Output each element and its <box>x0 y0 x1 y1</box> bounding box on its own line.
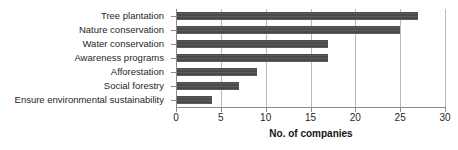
category-label: Afforestation <box>0 67 164 77</box>
bar <box>176 12 418 20</box>
x-axis-tick-label: 25 <box>385 112 415 124</box>
y-axis-tick-mark <box>171 16 176 17</box>
category-label: Water conservation <box>0 39 164 49</box>
gridline <box>355 9 356 107</box>
x-axis-tick-label: 20 <box>340 112 370 124</box>
gridline <box>445 9 446 107</box>
bar-chart: Tree plantationNature conservationWater … <box>0 0 458 150</box>
category-label: Awareness programs <box>0 53 164 63</box>
x-axis-tick-label: 10 <box>251 112 281 124</box>
bar <box>176 54 328 62</box>
category-label: Tree plantation <box>0 11 164 21</box>
bar <box>176 40 328 48</box>
bar <box>176 26 400 34</box>
y-axis-tick-mark <box>171 30 176 31</box>
x-axis-tick-label: 30 <box>430 112 458 124</box>
x-axis-title: No. of companies <box>176 128 446 139</box>
category-label: Ensure environmental sustainability <box>0 95 164 105</box>
category-label: Social forestry <box>0 81 164 91</box>
x-axis-tick-label: 15 <box>296 112 326 124</box>
category-axis-labels: Tree plantationNature conservationWater … <box>0 9 170 107</box>
y-axis-line <box>176 9 177 108</box>
x-axis-tick-label: 5 <box>206 112 236 124</box>
category-label: Nature conservation <box>0 25 164 35</box>
plot-area <box>176 9 445 107</box>
bar <box>176 96 212 104</box>
bar <box>176 82 239 90</box>
y-axis-tick-mark <box>171 72 176 73</box>
gridline <box>400 9 401 107</box>
x-axis-tick-label: 0 <box>161 112 191 124</box>
y-axis-tick-mark <box>171 44 176 45</box>
bar <box>176 68 257 76</box>
y-axis-tick-mark <box>171 86 176 87</box>
y-axis-tick-mark <box>171 58 176 59</box>
y-axis-tick-mark <box>171 100 176 101</box>
